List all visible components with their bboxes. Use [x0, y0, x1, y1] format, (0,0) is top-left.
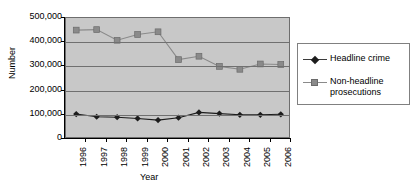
gridline [66, 115, 289, 116]
y-axis-tick-label: 500,000 [29, 12, 62, 21]
x-axis-tick-label: 2005 [263, 147, 272, 167]
legend-label: Non-headline prosecutions [328, 76, 408, 98]
x-axis-tick [270, 138, 271, 142]
x-axis-tick [106, 138, 107, 142]
y-axis-tick [61, 114, 65, 115]
legend-square-marker-icon [302, 77, 328, 89]
data-point-marker [134, 115, 140, 121]
x-axis-line [65, 138, 291, 139]
x-axis-tick [249, 138, 250, 142]
gridline [66, 66, 289, 67]
x-axis-tick [85, 138, 86, 142]
y-axis-tick [61, 65, 65, 66]
y-axis-tick-label: 200,000 [29, 85, 62, 94]
series-line [76, 30, 281, 70]
x-axis-tick-label: 2006 [284, 147, 293, 167]
data-point-marker [155, 117, 161, 123]
line-chart: Number 0100,000200,000300,000400,000500,… [0, 0, 413, 190]
y-axis-tick-labels: 0100,000200,000300,000400,000500,000 [14, 0, 62, 190]
x-axis-tick-label: 1999 [141, 147, 150, 167]
y-axis-tick [61, 41, 65, 42]
legend-label: Headline crime [328, 53, 390, 64]
data-point-marker [176, 57, 182, 63]
legend-sample-marker [311, 79, 318, 86]
data-point-marker [237, 66, 243, 72]
data-point-marker [94, 27, 100, 33]
gridline [66, 91, 289, 92]
x-axis-tick-label: 2001 [182, 147, 191, 167]
x-axis-tick [147, 138, 148, 142]
legend-sample-marker [311, 55, 319, 63]
legend-entry-headline-crime: Headline crime [302, 53, 408, 66]
x-axis-tick-label: 1997 [100, 147, 109, 167]
x-axis-tick [126, 138, 127, 142]
x-axis-tick-label: 2000 [161, 147, 170, 167]
x-axis-tick [229, 138, 230, 142]
gridline [66, 42, 289, 43]
x-axis-tick-label: 1996 [79, 147, 88, 167]
data-point-marker [196, 53, 202, 59]
x-axis-tick [188, 138, 189, 142]
legend-entry-non-headline-prosecutions: Non-headline prosecutions [302, 76, 408, 98]
x-axis-tick [290, 138, 291, 142]
x-axis-tick-label: 1998 [120, 147, 129, 167]
plot-area [65, 17, 290, 138]
legend-diamond-marker-icon [302, 54, 328, 66]
series-layer [66, 18, 290, 138]
x-axis-tick-label: 2003 [222, 147, 231, 167]
y-axis-line [64, 17, 65, 139]
x-axis: 1996199719981999200020012002200320042005… [65, 138, 290, 188]
y-axis-tick [61, 17, 65, 18]
x-axis-tick-label: 2004 [243, 147, 252, 167]
x-axis-tick [208, 138, 209, 142]
y-axis-tick-label: 300,000 [29, 60, 62, 69]
series-headline-crime [73, 109, 284, 123]
data-point-marker [155, 29, 161, 35]
y-axis-tick [61, 138, 65, 139]
x-axis-tick [167, 138, 168, 142]
x-axis-title: Year [140, 172, 158, 182]
y-axis-tick-label: 400,000 [29, 36, 62, 45]
y-axis-tick [61, 90, 65, 91]
x-axis-tick-label: 2002 [202, 147, 211, 167]
chart-legend: Headline crimeNon-headline prosecutions [297, 43, 410, 105]
data-point-marker [135, 32, 141, 38]
data-point-marker [73, 27, 79, 33]
y-axis-tick-label: 100,000 [29, 109, 62, 118]
